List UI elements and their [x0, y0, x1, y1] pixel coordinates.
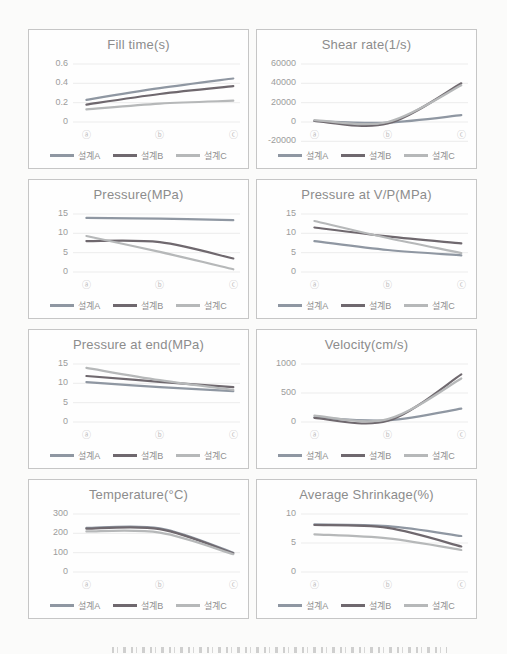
chart-legend: 설계A설계B설계C	[29, 149, 248, 162]
chart-legend: 설계A설계B설계C	[29, 449, 248, 462]
legend-swatch-0	[278, 604, 302, 607]
y-tick-label: 100	[29, 547, 68, 558]
legend-swatch-2	[404, 154, 428, 157]
chart-legend: 설계A설계B설계C	[257, 149, 476, 162]
legend-label-0: 설계A	[306, 299, 328, 312]
x-category-label: ⓐ	[304, 430, 324, 440]
legend-label-1: 설계B	[141, 149, 163, 162]
x-category-label: ⓒ	[451, 130, 471, 140]
legend-label-1: 설계B	[141, 299, 163, 312]
x-category-label: ⓐ	[76, 130, 96, 140]
chart-panel-7: Average Shrinkage(%) 설계A설계B설계C 0510ⓐⓑⓒ	[256, 479, 477, 619]
legend-swatch-0	[278, 304, 302, 307]
y-tick-label: 0	[29, 566, 68, 577]
legend-swatch-2	[404, 304, 428, 307]
legend-item-0: 설계A	[50, 449, 100, 462]
legend-item-0: 설계A	[278, 299, 328, 312]
chart-legend: 설계A설계B설계C	[257, 449, 476, 462]
series-line-1	[86, 241, 233, 259]
y-tick-label: 0.4	[29, 77, 68, 88]
y-tick-label: 15	[29, 358, 68, 369]
legend-item-1: 설계B	[113, 149, 163, 162]
legend-label-1: 설계B	[141, 599, 163, 612]
x-category-label: ⓐ	[304, 130, 324, 140]
legend-label-0: 설계A	[306, 449, 328, 462]
legend-swatch-1	[113, 304, 137, 307]
legend-item-2: 설계C	[404, 599, 455, 612]
chart-legend: 설계A설계B설계C	[257, 299, 476, 312]
chart-legend: 설계A설계B설계C	[29, 299, 248, 312]
legend-label-1: 설계B	[369, 599, 391, 612]
chart-panel-0: Fill time(s) 설계A설계B설계C 00.20.40.6ⓐⓑⓒ	[28, 29, 249, 169]
x-category-label: ⓑ	[378, 130, 398, 140]
legend-label-2: 설계C	[432, 599, 455, 612]
y-tick-label: 200	[29, 527, 68, 538]
chart-panel-5: Velocity(cm/s) 설계A설계B설계C 05001000ⓐⓑⓒ	[256, 329, 477, 469]
chart-panel-1: Shear rate(1/s) 설계A설계B설계C -2000002000040…	[256, 29, 477, 169]
legend-item-2: 설계C	[404, 149, 455, 162]
y-tick-label: 500	[257, 387, 296, 398]
legend-label-2: 설계C	[204, 149, 227, 162]
legend-label-0: 설계A	[78, 149, 100, 162]
x-category-label: ⓐ	[76, 430, 96, 440]
legend-label-2: 설계C	[204, 599, 227, 612]
x-category-label: ⓒ	[451, 580, 471, 590]
legend-swatch-2	[176, 604, 200, 607]
legend-item-2: 설계C	[176, 449, 227, 462]
y-tick-label: 0	[257, 416, 296, 427]
legend-item-2: 설계C	[404, 299, 455, 312]
legend-label-2: 설계C	[432, 299, 455, 312]
x-category-label: ⓑ	[150, 130, 170, 140]
x-category-label: ⓒ	[223, 430, 243, 440]
y-tick-label: 15	[257, 208, 296, 219]
series-line-2	[314, 534, 461, 550]
x-category-label: ⓑ	[150, 280, 170, 290]
y-tick-label: 10	[257, 227, 296, 238]
legend-swatch-1	[113, 154, 137, 157]
legend-item-0: 설계A	[50, 149, 100, 162]
legend-item-2: 설계C	[176, 299, 227, 312]
legend-swatch-0	[278, 154, 302, 157]
y-tick-label: 15	[29, 208, 68, 219]
x-category-label: ⓒ	[223, 280, 243, 290]
x-category-label: ⓑ	[378, 280, 398, 290]
legend-swatch-1	[341, 154, 365, 157]
legend-item-2: 설계C	[404, 449, 455, 462]
legend-swatch-2	[176, 304, 200, 307]
x-category-label: ⓐ	[76, 280, 96, 290]
y-tick-label: 20000	[257, 97, 296, 108]
y-tick-label: 10	[29, 377, 68, 388]
series-line-2	[314, 221, 461, 253]
series-line-1	[314, 83, 461, 125]
series-line-1	[314, 374, 461, 423]
legend-item-2: 설계C	[176, 149, 227, 162]
x-category-label: ⓑ	[378, 430, 398, 440]
y-tick-label: 0.2	[29, 97, 68, 108]
y-tick-label: -20000	[257, 135, 296, 146]
x-category-label: ⓑ	[150, 580, 170, 590]
legend-label-2: 설계C	[204, 449, 227, 462]
y-tick-label: 5	[257, 247, 296, 258]
legend-label-1: 설계B	[369, 149, 391, 162]
legend-label-2: 설계C	[432, 449, 455, 462]
y-tick-label: 300	[29, 508, 68, 519]
legend-item-1: 설계B	[113, 599, 163, 612]
legend-item-1: 설계B	[341, 449, 391, 462]
x-category-label: ⓒ	[451, 280, 471, 290]
x-category-label: ⓒ	[223, 580, 243, 590]
legend-label-2: 설계C	[432, 149, 455, 162]
legend-label-0: 설계A	[306, 599, 328, 612]
legend-item-0: 설계A	[50, 299, 100, 312]
legend-item-1: 설계B	[341, 299, 391, 312]
x-category-label: ⓒ	[451, 430, 471, 440]
series-line-2	[86, 531, 233, 555]
legend-label-2: 설계C	[204, 299, 227, 312]
x-category-label: ⓒ	[223, 130, 243, 140]
legend-label-0: 설계A	[78, 599, 100, 612]
series-line-1	[86, 376, 233, 387]
chart-grid: Fill time(s) 설계A설계B설계C 00.20.40.6ⓐⓑⓒ She…	[28, 29, 477, 619]
legend-swatch-0	[50, 304, 74, 307]
legend-label-0: 설계A	[78, 449, 100, 462]
legend-swatch-2	[404, 604, 428, 607]
legend-label-1: 설계B	[369, 449, 391, 462]
